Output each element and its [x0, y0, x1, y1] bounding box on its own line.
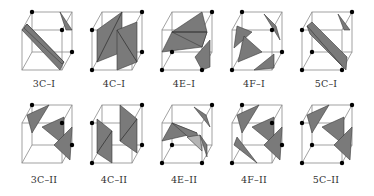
panel-label: 3C–II [14, 174, 74, 185]
vertex-marker [230, 68, 234, 72]
cube-4c-i [90, 10, 144, 72]
vertex-marker [90, 68, 94, 72]
panel-label: 4F–II [224, 174, 284, 185]
panel-label: 4E–I [154, 78, 214, 89]
cube-4f-i [230, 10, 284, 72]
cube-3c-ii [22, 103, 74, 163]
vertex-marker [280, 50, 284, 54]
vertex-marker [70, 50, 74, 54]
vertex-marker [300, 68, 304, 72]
panel-label: 3C–I [14, 78, 74, 89]
vertex-marker [310, 143, 314, 147]
vertex-marker [300, 161, 304, 165]
vertex-marker [210, 10, 214, 14]
cube-4e-i [160, 10, 214, 72]
vertex-marker [90, 121, 94, 125]
vertex-marker [240, 10, 244, 14]
vertex-marker [160, 161, 164, 165]
vertex-marker [340, 161, 344, 165]
vertex-marker [60, 121, 64, 125]
cube-3c-i [22, 10, 74, 70]
cube-5c-ii [300, 103, 354, 165]
panel-label: 4F–I [224, 78, 284, 89]
vertex-marker [140, 103, 144, 107]
vertex-marker [60, 28, 64, 32]
vertex-marker [350, 10, 354, 14]
vertex-marker [90, 28, 94, 32]
vertex-marker [200, 68, 204, 72]
vertex-marker [240, 103, 244, 107]
vertex-marker [140, 50, 144, 54]
vertex-marker [90, 161, 94, 165]
vertex-marker [200, 161, 204, 165]
vertex-marker [30, 103, 34, 107]
vertex-marker [140, 143, 144, 147]
vertex-marker [170, 143, 174, 147]
cube-4e-ii [160, 103, 214, 165]
vertex-marker [230, 161, 234, 165]
vertex-marker [270, 121, 274, 125]
cube-configuration-figure [0, 0, 374, 196]
vertex-marker [70, 143, 74, 147]
panel-label: 5C–I [296, 78, 356, 89]
vertex-marker [210, 103, 214, 107]
vertex-marker [350, 103, 354, 107]
vertex-marker [140, 10, 144, 14]
cube-5c-i [300, 10, 354, 72]
cube-4f-ii [230, 103, 284, 165]
vertex-marker [160, 68, 164, 72]
panel-label: 4E–II [154, 174, 214, 185]
panel-label: 4C–I [84, 78, 144, 89]
vertex-marker [310, 50, 314, 54]
panel-label: 4C–II [84, 174, 144, 185]
panel-label: 5C–II [296, 174, 356, 185]
vertex-marker [300, 121, 304, 125]
vertex-marker [300, 28, 304, 32]
cube-4c-ii [90, 103, 144, 165]
vertex-marker [340, 68, 344, 72]
vertex-marker [30, 10, 34, 14]
vertex-marker [170, 50, 174, 54]
vertex-marker [270, 28, 274, 32]
vertex-marker [280, 143, 284, 147]
